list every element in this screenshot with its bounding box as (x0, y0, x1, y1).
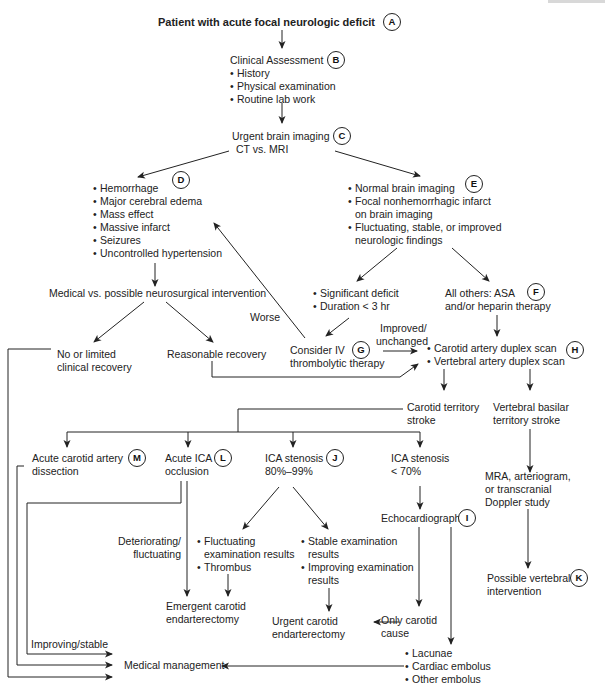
badge-k: K (570, 569, 588, 587)
node-mra-line1: MRA, arteriogram, (485, 470, 571, 483)
badge-a: A (383, 13, 401, 31)
node-g-line2: thrombolytic therapy (290, 357, 385, 370)
node-stable-item: Improving examinationresults (301, 561, 414, 587)
edge-label-deteriorating: Deteriorating/ fluctuating (108, 535, 181, 561)
node-d-findings: Hemorrhage Major cerebral edema Mass eff… (93, 182, 222, 260)
node-l-line1: Acute ICA (165, 452, 212, 465)
node-embolus-item: Other embolus (405, 673, 491, 686)
node-no-recovery: No or limited clinical recovery (57, 348, 132, 374)
edge-label-improving-stable: Improving/stable (31, 638, 108, 651)
node-d-item: Massive infarct (93, 221, 222, 234)
node-b-clinical-assessment: Clinical Assessment History Physical exa… (230, 54, 336, 106)
node-h-item: Carotid artery duplex scan (427, 342, 565, 355)
node-b-title: Clinical Assessment (230, 54, 336, 67)
badge-i: I (458, 509, 476, 527)
badge-d: D (172, 171, 190, 189)
node-fluctuating-results: Fluctuatingexamination results Thrombus (197, 535, 294, 574)
node-e-item: Focal nonhemorrhagic infarcton brain ima… (348, 195, 502, 221)
node-e-item: Fluctuating, stable, or improvedneurolog… (348, 221, 502, 247)
badge-e: E (465, 175, 483, 193)
node-b-item: History (230, 67, 336, 80)
node-vertebral-basilar-stroke: Vertebral basilar territory stroke (493, 401, 569, 427)
node-a-patient: Patient with acute focal neurologic defi… (158, 16, 375, 29)
node-medical-management: Medical management (124, 659, 224, 672)
node-medical-vs-surgical: Medical vs. possible neurosurgical inter… (49, 287, 266, 300)
node-ica-lt70-line2: < 70% (391, 465, 449, 478)
node-reasonable-recovery-title: Reasonable recovery (167, 348, 266, 361)
node-carotid-stroke-line1: Carotid territory (407, 401, 479, 414)
node-no-recovery-line2: clinical recovery (57, 361, 132, 374)
node-k-line2: intervention (487, 585, 570, 598)
node-no-recovery-line1: No or limited (57, 348, 132, 361)
node-b-item: Physical examination (230, 80, 336, 93)
node-mra-line3: Doppler study (485, 496, 571, 509)
node-d-item: Uncontrolled hypertension (93, 247, 222, 260)
node-only-carotid-line2: cause (381, 627, 437, 640)
node-i-title: Echocardiography (381, 512, 466, 525)
node-h-item: Vertebral artery duplex scan (427, 355, 565, 368)
node-k-vertebral-intervention: Possible vertebral intervention (487, 572, 570, 598)
badge-j: J (326, 449, 344, 467)
node-emergent-line2: endarterectomy (166, 613, 246, 626)
node-significant-item: Significant deficit (313, 287, 399, 300)
node-significant-item: Duration < 3 hr (313, 300, 399, 313)
node-carotid-territory-stroke: Carotid territory stroke (407, 401, 479, 427)
node-medical-vs-surgical-title: Medical vs. possible neurosurgical inter… (49, 287, 266, 300)
node-stable-item: Stable examinationresults (301, 535, 414, 561)
node-ica-lt70-line1: ICA stenosis (391, 452, 449, 465)
node-embolus-item: Lacunae (405, 647, 491, 660)
edge-label-worse: Worse (250, 311, 280, 324)
node-vertebral-stroke-line2: territory stroke (493, 414, 569, 427)
badge-b: B (327, 51, 345, 69)
node-b-item: Routine lab work (230, 93, 336, 106)
node-significant-deficit: Significant deficit Duration < 3 hr (313, 287, 399, 313)
node-fluctuating-item: Thrombus (197, 561, 294, 574)
node-stable-results: Stable examinationresults Improving exam… (301, 535, 414, 587)
node-carotid-stroke-line2: stroke (407, 414, 479, 427)
badge-g: G (352, 341, 370, 359)
badge-m: M (128, 449, 146, 467)
node-c-title: Urgent brain imaging (232, 130, 329, 143)
node-m-line2: dissection (32, 465, 123, 478)
node-d-item: Mass effect (93, 208, 222, 221)
node-g-thrombolytic: Consider IV thrombolytic therapy (290, 344, 385, 370)
node-d-item: Major cerebral edema (93, 195, 222, 208)
node-only-carotid-line1: Only carotid (381, 614, 437, 627)
node-m-line1: Acute carotid artery (32, 452, 123, 465)
node-a-title: Patient with acute focal neurologic defi… (158, 16, 375, 29)
node-c-urgent-imaging: Urgent brain imaging CT vs. MRI (232, 130, 329, 156)
badge-h: H (566, 341, 584, 359)
node-mra-line2: or transcranial (485, 483, 571, 496)
node-only-carotid-cause: Only carotid cause (381, 614, 437, 640)
node-embolus-list: Lacunae Cardiac embolus Other embolus (405, 647, 491, 686)
node-fluctuating-item: Fluctuatingexamination results (197, 535, 294, 561)
edge-label-improved: Improved/ unchanged (376, 322, 428, 348)
node-emergent-line1: Emergent carotid (166, 600, 246, 613)
node-d-item: Seizures (93, 234, 222, 247)
badge-c: C (333, 127, 351, 145)
node-vertebral-stroke-line1: Vertebral basilar (493, 401, 569, 414)
badge-f: F (527, 283, 545, 301)
node-h-duplex-scan: Carotid artery duplex scan Vertebral art… (427, 342, 565, 368)
node-reasonable-recovery: Reasonable recovery (167, 348, 266, 361)
node-ica-stenosis-lt70: ICA stenosis < 70% (391, 452, 449, 478)
node-j-line1: ICA stenosis (265, 452, 323, 465)
node-i-echocardiography: Echocardiography (381, 512, 466, 525)
node-urgent-line1: Urgent carotid (272, 615, 345, 628)
node-k-line1: Possible vertebral (487, 572, 570, 585)
node-l-ica-occlusion: Acute ICA occlusion (165, 452, 212, 478)
node-mra-arteriogram: MRA, arteriogram, or transcranial Dopple… (485, 470, 571, 509)
node-urgent-line2: endarterectomy (272, 628, 345, 641)
node-f-line2: and/or heparin therapy (445, 300, 551, 313)
node-j-line2: 80%–99% (265, 465, 323, 478)
node-m-dissection: Acute carotid artery dissection (32, 452, 123, 478)
node-g-line1: Consider IV (290, 344, 385, 357)
node-j-ica-stenosis-80-99: ICA stenosis 80%–99% (265, 452, 323, 478)
node-l-line2: occlusion (165, 465, 212, 478)
badge-l: L (214, 449, 232, 467)
node-d-item: Hemorrhage (93, 182, 222, 195)
node-urgent-cea: Urgent carotid endarterectomy (272, 615, 345, 641)
node-embolus-item: Cardiac embolus (405, 660, 491, 673)
node-c-subtitle: CT vs. MRI (232, 143, 329, 156)
node-emergent-cea: Emergent carotid endarterectomy (166, 600, 246, 626)
